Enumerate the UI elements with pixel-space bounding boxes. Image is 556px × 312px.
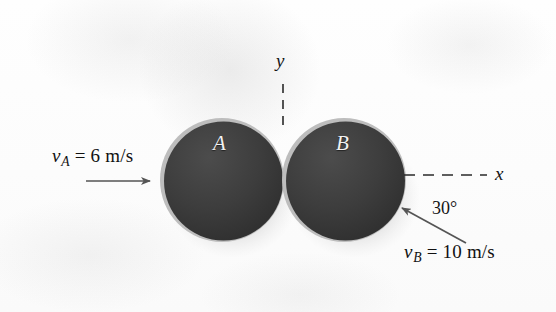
velocity-a-label: vA = 6 m/s (52, 145, 133, 170)
angle-label: 30° (432, 198, 457, 219)
velocity-a-subscript: A (61, 154, 70, 169)
velocity-a-equals: = (75, 145, 86, 166)
physics-diagram-figure: A B y x vA = 6 m/s vB = 10 m/s 30° (0, 0, 556, 312)
x-axis-label: x (495, 163, 503, 185)
y-axis-label: y (276, 50, 284, 72)
velocity-a-magnitude: 6 (91, 145, 101, 166)
velocity-b-equals: = (427, 241, 438, 262)
sphere-a-label: A (213, 131, 226, 156)
velocity-b-symbol: v (404, 241, 413, 262)
velocity-b-label: vB = 10 m/s (404, 241, 495, 266)
sphere-b-label: B (336, 131, 349, 156)
velocity-b-units: m/s (467, 241, 495, 262)
velocity-b-subscript: B (413, 250, 422, 265)
velocity-b-magnitude: 10 (443, 241, 462, 262)
velocity-a-symbol: v (52, 145, 61, 166)
velocity-a-units: m/s (105, 145, 133, 166)
